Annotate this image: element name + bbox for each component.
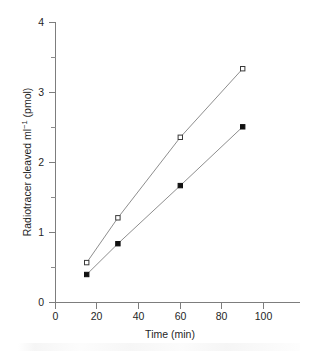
x-tick-label-40: 40 [133,310,145,322]
y-axis-title-superscript: −1 [20,120,29,129]
y-tick-label-1: 1 [38,226,44,238]
y-tick-label-3: 3 [38,86,44,98]
data-point-marker [116,216,120,220]
data-point-marker [85,272,89,276]
y-axis-title-main: Radiotracer cleaved ml [21,129,33,236]
series-open-square [85,67,245,265]
x-tick-label-0: 0 [53,310,59,322]
chart-canvas: 4 3 2 1 0 0 20 40 60 80 100 Time (min) R… [0,0,318,353]
y-axis-title-tail: (pmol) [21,88,33,121]
x-axis-title: Time (min) [145,328,195,340]
y-axis: 4 3 2 1 0 [38,16,55,308]
series-filled-square [85,125,245,277]
data-point-marker [178,183,182,187]
data-point-marker [241,125,245,129]
y-tick-label-4: 4 [38,16,44,28]
series-open-square-line [87,69,243,263]
data-point-marker [178,135,182,139]
x-axis: 0 20 40 60 80 100 [53,303,300,323]
y-axis-title: Radiotracer cleaved ml−1 (pmol) [20,88,33,237]
data-point-marker [241,67,245,71]
caption-smudge [18,343,300,351]
data-point-marker [85,260,89,264]
series-open-square-markers [85,67,245,265]
x-tick-label-100: 100 [255,310,273,322]
data-point-marker [116,242,120,246]
x-tick-label-60: 60 [175,310,187,322]
series-filled-square-line [87,127,243,275]
x-tick-label-80: 80 [216,310,228,322]
y-tick-label-2: 2 [38,156,44,168]
y-tick-label-0: 0 [38,296,44,308]
x-tick-label-20: 20 [91,310,103,322]
